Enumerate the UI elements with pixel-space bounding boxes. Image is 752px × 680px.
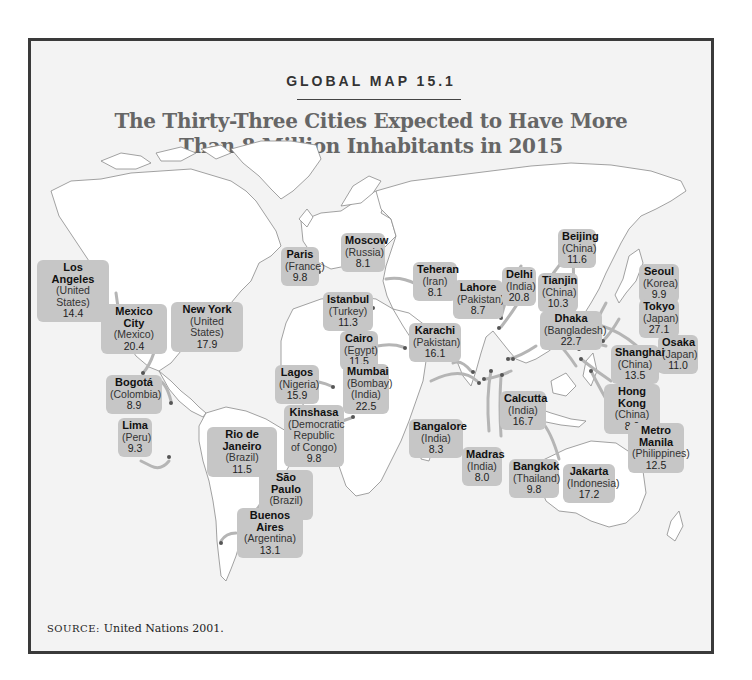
city-label-mumbai: Mumbai(Bombay)(India)22.5 (343, 364, 389, 414)
city-label-moscow: Moscow(Russia)8.1 (341, 233, 385, 272)
landmass-arctic-islands (101, 145, 231, 169)
landmass-central-america (159, 371, 206, 417)
source-label: SOURCE: (47, 623, 100, 634)
city-label-buenos-aires: Buenos Aires(Argentina)13.1 (237, 508, 303, 558)
source-text: United Nations 2001. (104, 622, 224, 635)
landmass-new-zealand (667, 511, 683, 541)
city-label-lagos: Lagos(Nigeria)15.9 (275, 365, 319, 404)
map-frame: GLOBAL MAP 15.1 The Thirty-Three Cities … (28, 38, 714, 654)
city-label-mexico-city: Mexico City(Mexico)20.4 (101, 304, 167, 354)
city-label-tianjin: Tianjin(China)10.3 (538, 273, 578, 312)
city-label-paris: Paris(France)9.8 (281, 247, 319, 286)
city-label-istanbul: Istanbul(Turkey)11.3 (323, 292, 373, 331)
city-label-lima: Lima(Peru)9.3 (118, 418, 152, 457)
city-label-bangalore: Bangalore(India)8.3 (409, 419, 463, 458)
city-label-madras: Madras(India)8.0 (462, 447, 502, 486)
city-label-seoul: Seoul(Korea)9.9 (639, 264, 679, 303)
city-label-shanghai: Shanghai(China)13.5 (611, 345, 659, 384)
city-label-kinshasa: Kinshasa(DemocraticRepublicof Congo)9.8 (284, 405, 344, 467)
city-label-tokyo: Tokyo(Japan)27.1 (639, 299, 679, 338)
city-label-beijing: Beijing(China)11.6 (558, 229, 596, 268)
city-label-karachi: Karachi(Pakistan)16.1 (409, 323, 461, 362)
source-note: SOURCE:United Nations 2001. (47, 622, 224, 635)
city-label-lahore: Lahore(Pakistan)8.7 (453, 280, 503, 319)
city-label-jakarta: Jakarta(Indonesia)17.2 (563, 464, 615, 503)
city-label-delhi: Delhi(India)20.8 (502, 267, 536, 306)
city-label-bangkok: Bangkok(Thailand)9.8 (509, 459, 559, 498)
city-label-calcutta: Calcutta(India)16.7 (500, 391, 546, 430)
city-label-metro-manila: MetroManila(Philippines)12.5 (628, 423, 684, 473)
city-label-los-angeles: Los Angeles(United States)14.4 (37, 260, 109, 322)
city-label-teheran: Teheran(Iran)8.1 (413, 262, 457, 301)
city-label-dhaka: Dhaka(Bangladesh)22.7 (540, 311, 602, 350)
city-label-bogota: Bogotá(Colombia)8.9 (106, 375, 162, 414)
city-label-new-york: New York(United States)17.9 (171, 302, 243, 352)
